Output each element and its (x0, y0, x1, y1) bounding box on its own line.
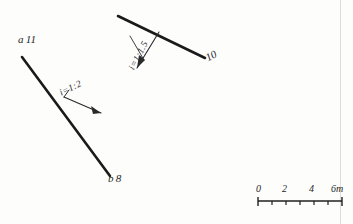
point-label-a: a11 (18, 33, 36, 45)
point-a-elevation: 11 (24, 33, 37, 45)
scale-bar: 0 2 4 6m (256, 183, 344, 213)
slope-line-ab-group (22, 57, 110, 176)
point-b-name: b (108, 172, 114, 184)
point-a-name: a (18, 33, 24, 45)
point-label-b: b8 (108, 172, 121, 184)
slope-leader-left-arrowhead (91, 106, 101, 114)
scale-bar-ruler (256, 183, 344, 213)
point-b-elevation: 8 (114, 172, 122, 184)
slope-line-ab (22, 57, 110, 176)
drawing-canvas: a11 b8 10 i=1:2 i=1:1.5 0 2 4 6m (0, 0, 353, 224)
